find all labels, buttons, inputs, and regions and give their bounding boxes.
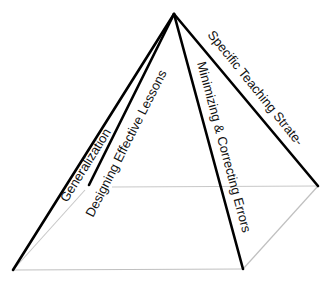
edge-designing-lessons (89, 14, 174, 185)
edge-specific-strategies (174, 14, 318, 186)
base-back-edge (112, 186, 318, 187)
pyramid-diagram: Generalization Designing Effective Lesso… (0, 0, 330, 285)
base-left-hidden-edge (13, 190, 85, 270)
base-front-edge (13, 269, 243, 270)
